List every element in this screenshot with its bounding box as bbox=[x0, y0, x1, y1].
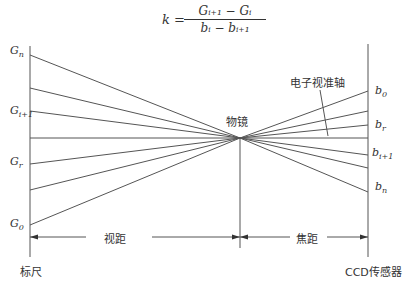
label-bn: bn bbox=[375, 180, 387, 195]
staff-label: 标尺 bbox=[20, 263, 42, 279]
focal-distance-label: 焦距 bbox=[296, 230, 318, 246]
lens-label: 物镜 bbox=[226, 113, 248, 129]
label-g0: G0 bbox=[10, 217, 24, 232]
label-gi1: Gi+1 bbox=[10, 104, 33, 119]
optical-diagram bbox=[0, 0, 404, 282]
axis-label: 电子视准轴 bbox=[290, 74, 345, 90]
label-gr: Gr bbox=[10, 155, 23, 170]
sensor-label: CCD传感器 bbox=[345, 263, 402, 279]
label-br: br bbox=[375, 118, 386, 133]
label-gn: Gn bbox=[10, 44, 24, 59]
view-distance-label: 视距 bbox=[104, 230, 126, 246]
label-b0: b0 bbox=[375, 84, 387, 99]
label-bi1: bi+1 bbox=[372, 146, 393, 161]
